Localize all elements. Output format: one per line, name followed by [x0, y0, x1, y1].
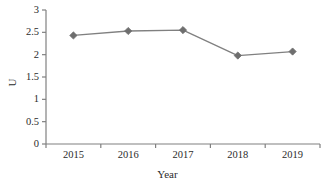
x-axis-tick-label: 2016	[118, 150, 139, 161]
x-axis-tick-labels: 20152016201720182019	[46, 148, 320, 164]
data-point-marker	[234, 52, 241, 59]
x-axis-tick-label: 2019	[282, 150, 303, 161]
x-axis-tick-label: 2018	[227, 150, 248, 161]
x-axis-title: Year	[0, 168, 335, 180]
data-point-marker	[70, 32, 77, 39]
data-point-marker	[289, 48, 296, 55]
data-point-marker	[125, 27, 132, 34]
x-axis-tick-label: 2015	[63, 150, 84, 161]
x-axis-tick-label: 2017	[173, 150, 194, 161]
line-chart: U 00.511.522.53 20152016201720182019 Yea…	[0, 0, 335, 193]
data-point-marker	[179, 27, 186, 34]
plot-area	[0, 0, 335, 193]
